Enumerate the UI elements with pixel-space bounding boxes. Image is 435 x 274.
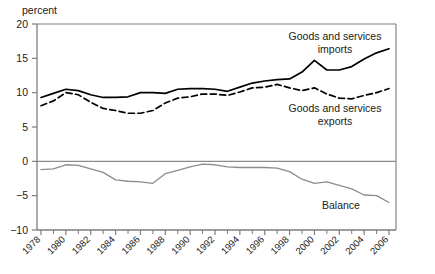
x-tick-label: 1992 [194,234,217,257]
x-tick-label: 2000 [293,234,316,257]
x-axis-ticks: 1978198019821984198619881990199219941996… [20,230,391,256]
exports-label-line1: Goods and services [289,102,382,114]
y-tick-label: −5 [16,189,28,201]
chart-figure: percent 20151050−5−10 197819801982198419… [0,0,435,274]
y-tick-label: 0 [22,155,28,167]
x-tick-label: 2002 [318,234,341,257]
line-chart: percent 20151050−5−10 197819801982198419… [0,0,435,274]
series-line-goods-and-services-imports [41,49,389,98]
imports-label-line2: imports [318,43,352,55]
x-tick-label: 1984 [94,234,117,257]
balance-label-line1: Balance [322,199,360,211]
x-tick-label: 1998 [268,234,291,257]
y-tick-label: −10 [10,224,28,236]
y-axis-unit-label-group: percent [22,4,57,16]
series-line-balance [41,164,389,202]
x-tick-label: 1982 [69,234,92,257]
y-tick-label: 15 [16,52,28,64]
exports-label-line2: exports [318,115,352,127]
caption-strip [0,265,435,274]
balance-label: Balance [322,199,360,211]
y-axis-unit-label: percent [22,4,57,16]
y-tick-label: 10 [16,86,28,98]
x-tick-label: 1994 [219,234,242,257]
x-tick-label: 1980 [45,234,68,257]
y-tick-label: 20 [16,18,28,30]
x-tick-label: 1996 [243,234,266,257]
exports-label: Goods and servicesexports [289,102,382,127]
y-axis-ticks: 20151050−5−10 [10,18,37,236]
y-tick-label: 5 [22,121,28,133]
x-tick-label: 1986 [119,234,142,257]
imports-label-line1: Goods and services [289,30,382,42]
x-tick-label: 1990 [169,234,192,257]
x-tick-label: 2006 [368,234,391,257]
imports-label: Goods and servicesimports [289,30,382,55]
x-tick-label: 1978 [20,234,43,257]
x-tick-label: 1988 [144,234,167,257]
x-tick-label: 2004 [343,234,366,257]
